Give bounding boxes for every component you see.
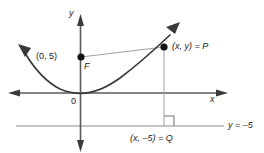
focus-point-dot xyxy=(77,53,84,60)
parabola-left-arrowhead xyxy=(18,44,31,57)
directrix-label: y = –5 xyxy=(228,121,253,130)
parabola-curve xyxy=(25,35,170,93)
y-axis-label: y xyxy=(69,9,74,18)
point-q-label: (x, –5) = Q xyxy=(130,134,173,143)
diagram-canvas xyxy=(0,0,264,153)
parabola-right-arrowhead xyxy=(166,22,180,34)
right-angle-marker xyxy=(164,116,174,126)
x-axis xyxy=(8,90,228,97)
focus-name-label: F xyxy=(84,62,90,71)
point-p-label: (x, y) = P xyxy=(172,42,208,51)
parabola-diagram: (0, 5) F (x, y) = P y x 0 (x, –5) = Q y … xyxy=(0,0,264,153)
origin-label: 0 xyxy=(71,97,76,106)
x-axis-label: x xyxy=(210,95,215,104)
focus-coordinates-label: (0, 5) xyxy=(36,52,57,61)
point-p-dot xyxy=(160,43,167,50)
y-axis xyxy=(77,14,84,152)
